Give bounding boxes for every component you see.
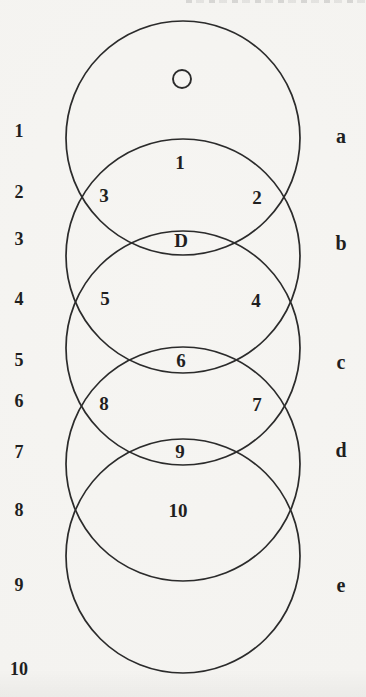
circle-letter-a: a (336, 126, 346, 146)
region-label-1: 1 (175, 153, 185, 172)
region-label-2: 2 (252, 188, 262, 207)
left-row-number-7: 7 (15, 443, 24, 461)
left-row-number-4: 4 (15, 290, 24, 308)
region-label-6: 6 (176, 351, 186, 370)
circle-b (66, 139, 300, 373)
left-row-number-10: 10 (10, 660, 28, 678)
circle-d (66, 347, 300, 581)
book-page: 132D5468791012345678910abcde (0, 0, 366, 697)
region-label-5: 5 (100, 289, 110, 308)
venn-diagram (0, 0, 366, 697)
region-label-9: 9 (175, 442, 185, 461)
circle-a (66, 21, 300, 255)
left-row-number-9: 9 (15, 576, 24, 594)
region-label-3: 3 (99, 186, 109, 205)
left-row-number-6: 6 (15, 392, 24, 410)
left-row-number-8: 8 (15, 501, 24, 519)
circle-letter-b: b (335, 233, 346, 253)
left-row-number-1: 1 (15, 122, 24, 140)
small-inner-circle (173, 70, 191, 88)
circle-e (66, 439, 300, 673)
region-label-10: 10 (169, 501, 188, 520)
region-label-D: D (174, 231, 188, 250)
circle-letter-c: c (337, 352, 346, 372)
circle-letter-d: d (335, 440, 346, 460)
circle-letter-e: e (337, 575, 346, 595)
left-row-number-5: 5 (15, 351, 24, 369)
region-label-4: 4 (251, 291, 261, 310)
circle-c (66, 231, 300, 465)
left-row-number-2: 2 (15, 183, 24, 201)
region-label-8: 8 (99, 394, 109, 413)
left-row-number-3: 3 (15, 230, 24, 248)
region-label-7: 7 (252, 395, 262, 414)
